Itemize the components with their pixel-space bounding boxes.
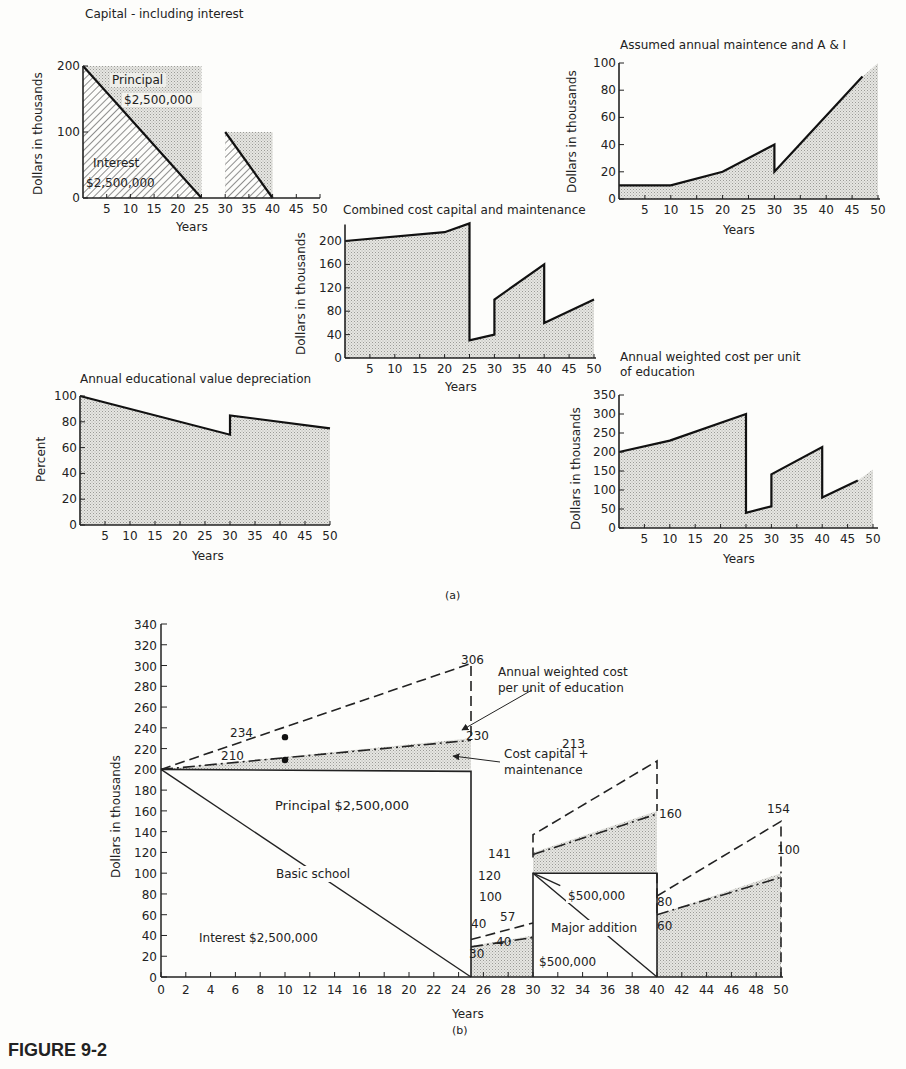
point-label: 100	[777, 843, 800, 857]
y-tick-label: 20	[601, 165, 616, 179]
point-label: 40	[471, 917, 486, 931]
c4-title: Annual educational value depreciation	[80, 372, 311, 386]
x-tick-label: 40	[819, 203, 834, 217]
y-tick-label: 180	[134, 784, 157, 798]
x-tick-label: 25	[197, 529, 212, 543]
x-tick-label: 50	[586, 362, 601, 376]
panel-b-label: (b)	[452, 1024, 468, 1037]
y-tick-label: 100	[54, 389, 77, 403]
x-tick-label: 45	[561, 362, 576, 376]
point-label: 141	[488, 847, 511, 861]
y-tick-label: 100	[57, 125, 80, 139]
c4-ylabel: Percent	[34, 437, 48, 482]
cb-ylabel: Dollars in thousands	[109, 755, 123, 878]
y-tick-label: 200	[593, 445, 616, 459]
x-tick-label: 50	[312, 202, 327, 216]
y-tick-label: 0	[608, 192, 616, 206]
y-tick-label: 60	[601, 110, 616, 124]
point-label: 80	[657, 895, 672, 909]
x-tick-label: 25	[741, 203, 756, 217]
x-tick-label: 15	[147, 529, 162, 543]
cb-major-addition-label: Major addition	[551, 921, 637, 935]
y-tick-label: 0	[149, 971, 157, 985]
x-tick-label: 22	[426, 983, 441, 997]
x-tick-label: 2	[182, 983, 190, 997]
cb-addition-bottom-label: $500,000	[539, 955, 596, 969]
c1-xlabel: Years	[175, 220, 208, 234]
x-tick-label: 30	[525, 983, 540, 997]
c1-ylabel: Dollars in thousands	[31, 72, 45, 195]
x-tick-label: 25	[462, 362, 477, 376]
figure-label: FIGURE 9-2	[8, 1040, 107, 1061]
y-tick-label: 120	[319, 281, 342, 295]
y-tick-label: 140	[134, 826, 157, 840]
x-tick-label: 35	[512, 362, 527, 376]
x-tick-label: 40	[537, 362, 552, 376]
y-tick-label: 40	[327, 328, 342, 342]
x-tick-label: 25	[194, 202, 209, 216]
x-tick-label: 5	[641, 532, 649, 546]
x-tick-label: 20	[715, 203, 730, 217]
x-tick-label: 40	[272, 529, 287, 543]
y-tick-label: 160	[319, 257, 342, 271]
point-label: 160	[659, 807, 682, 821]
x-tick-label: 20	[401, 983, 416, 997]
cb-legend-weighted-2: per unit of education	[498, 681, 624, 695]
x-tick-label: 35	[247, 529, 262, 543]
y-tick-label: 320	[134, 639, 157, 653]
y-tick-label: 340	[134, 618, 157, 632]
x-tick-label: 10	[663, 203, 678, 217]
c1-title: Capital - including interest	[85, 7, 244, 21]
y-tick-label: 120	[134, 846, 157, 860]
chart-capital: 51015202530354045500100200	[57, 59, 328, 216]
x-tick-label: 40	[815, 532, 830, 546]
point-label: 40	[496, 935, 511, 949]
x-tick-label: 46	[724, 983, 739, 997]
x-tick-label: 36	[600, 983, 615, 997]
x-tick-label: 25	[738, 532, 753, 546]
y-tick-label: 300	[134, 660, 157, 674]
chart-maintenance: 5101520253035404550020406080100	[593, 56, 886, 217]
c5-title-line2: of education	[620, 365, 695, 379]
figure-canvas: 51015202530354045500100200 5101520253035…	[0, 0, 906, 1069]
y-tick-label: 50	[601, 502, 616, 516]
cb-legend-cost-1: Cost capital +	[504, 747, 589, 761]
y-tick-label: 40	[62, 466, 77, 480]
x-tick-label: 38	[625, 983, 640, 997]
x-tick-label: 40	[265, 202, 280, 216]
x-tick-label: 30	[767, 203, 782, 217]
x-tick-label: 15	[688, 532, 703, 546]
y-tick-label: 150	[593, 464, 616, 478]
point-label: 210	[221, 749, 244, 763]
y-tick-label: 260	[134, 701, 157, 715]
y-tick-label: 300	[593, 407, 616, 421]
y-tick-label: 160	[134, 805, 157, 819]
point-label: 100	[479, 890, 502, 904]
y-tick-label: 20	[62, 492, 77, 506]
c4-xlabel: Years	[191, 549, 224, 563]
y-tick-label: 200	[57, 59, 80, 73]
y-tick-label: 0	[334, 351, 342, 365]
x-tick-label: 10	[123, 202, 138, 216]
c1-interest-label: Interest	[93, 156, 140, 170]
point-label: 306	[461, 653, 484, 667]
c5-title-line1: Annual weighted cost per unit	[620, 350, 801, 364]
point-label: 230	[466, 729, 489, 743]
y-tick-label: 0	[72, 191, 80, 205]
x-tick-label: 6	[232, 983, 240, 997]
x-tick-label: 35	[793, 203, 808, 217]
x-tick-label: 30	[764, 532, 779, 546]
x-tick-label: 28	[501, 983, 516, 997]
c1-principal-label: Principal	[112, 73, 163, 87]
x-tick-label: 15	[689, 203, 704, 217]
x-tick-label: 12	[302, 983, 317, 997]
y-tick-label: 0	[608, 521, 616, 535]
x-tick-label: 5	[641, 203, 649, 217]
x-tick-label: 26	[476, 983, 491, 997]
x-tick-label: 35	[241, 202, 256, 216]
x-tick-label: 45	[297, 529, 312, 543]
x-tick-label: 50	[322, 529, 337, 543]
x-tick-label: 35	[789, 532, 804, 546]
x-tick-label: 24	[451, 983, 466, 997]
point-label: 60	[657, 919, 672, 933]
